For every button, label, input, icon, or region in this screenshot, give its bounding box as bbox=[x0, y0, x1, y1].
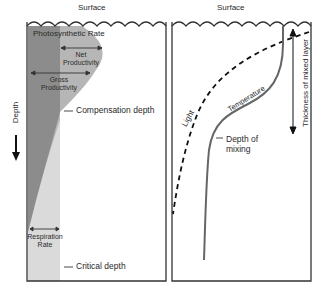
gross-productivity-label: Gross Productivity bbox=[36, 76, 82, 92]
surface-label-right: Surface bbox=[217, 3, 245, 12]
surface-waves-right bbox=[172, 22, 311, 26]
critical-depth-label: Critical depth bbox=[76, 262, 126, 271]
net-productivity-label: Net Productivity bbox=[62, 51, 100, 67]
surface-label-left: Surface bbox=[78, 3, 106, 12]
depth-axis-label: Depth bbox=[11, 99, 20, 127]
respiration-rate-label: Respiration Rate bbox=[26, 233, 64, 249]
depth-of-mixing-label: Depth of mixing bbox=[226, 134, 262, 154]
light-curve bbox=[173, 32, 309, 214]
mixed-layer-label: Thickness of mixed layer bbox=[301, 39, 310, 127]
surface-waves-left bbox=[27, 22, 166, 26]
diagram-canvas bbox=[0, 0, 320, 296]
compensation-depth-label: Compensation depth bbox=[76, 106, 154, 115]
depth-arrow-icon bbox=[12, 152, 20, 161]
photosynthetic-rate-title: Photosynthetic Rate bbox=[33, 29, 105, 38]
